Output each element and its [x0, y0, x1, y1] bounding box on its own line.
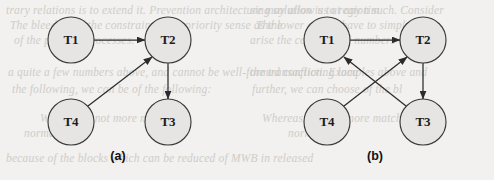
node-label: T2 [415, 32, 430, 47]
panel-a: T1T2T4T3 (a) [48, 17, 191, 163]
node-t4[interactable]: T4 [48, 99, 94, 145]
node-t2[interactable]: T2 [145, 17, 191, 63]
panel-b-caption: (b) [367, 149, 383, 163]
node-label: T1 [319, 32, 334, 47]
node-t4[interactable]: T4 [304, 99, 350, 145]
node-label: T2 [160, 32, 175, 47]
figure-container: trary relations is to extend it. Prevent… [0, 0, 494, 180]
node-label: T4 [63, 114, 79, 129]
panel-a-nodes: T1T2T4T3 [48, 17, 191, 145]
node-label: T3 [160, 114, 176, 129]
node-t1[interactable]: T1 [304, 17, 350, 63]
node-t3[interactable]: T3 [145, 99, 191, 145]
dependency-graph-figure: T1T2T4T3 (a) T1T2T4T3 (b) [0, 0, 494, 180]
edge-t4-to-t2 [88, 57, 152, 106]
panel-a-caption: (a) [110, 149, 125, 163]
node-t2[interactable]: T2 [400, 17, 446, 63]
node-label: T3 [415, 114, 431, 129]
node-label: T1 [63, 32, 78, 47]
node-t3[interactable]: T3 [400, 99, 446, 145]
node-label: T4 [319, 114, 335, 129]
node-t1[interactable]: T1 [48, 17, 94, 63]
panel-b: T1T2T4T3 (b) [304, 17, 446, 163]
